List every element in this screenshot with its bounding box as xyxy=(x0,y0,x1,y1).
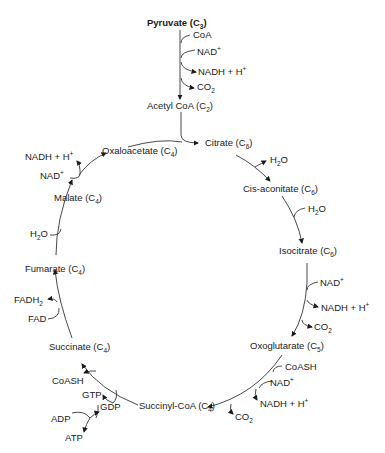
isocitrate-label: Isocitrate (C6) xyxy=(279,246,337,258)
nad-input-label: NAD+ xyxy=(197,46,221,57)
nadh-output-label: NADH + H+ xyxy=(198,66,246,77)
adp-label: ADP xyxy=(51,414,71,424)
co2-oxoglutarate-label: CO2 xyxy=(235,412,253,424)
oxaloacetate-label: Oxaloacetate (C4) xyxy=(102,146,177,158)
fad-label: FAD xyxy=(28,314,46,324)
acetyl-coa-label: Acetyl CoA (C2) xyxy=(147,101,213,113)
coash-succinyl-label: CoASH xyxy=(52,376,84,386)
malate-label: Malate (C4) xyxy=(54,193,102,205)
krebs-cycle-diagram: Pyruvate (C3) CoA NAD+ NADH + H+ CO2 Ace… xyxy=(0,0,385,453)
h2o-in-cisaconitate-label: H2O xyxy=(308,204,326,216)
nad-malate-label: NAD+ xyxy=(40,170,64,181)
nadh-oxoglutarate-label: NADH + H+ xyxy=(260,398,308,409)
succinate-label: Succinate (C4) xyxy=(49,342,110,354)
coa-input-label: CoA xyxy=(193,30,211,40)
citrate-label: Citrate (C6) xyxy=(205,138,252,150)
nad-isocitrate-label: NAD+ xyxy=(320,277,344,288)
nadh-isocitrate-label: NADH + H+ xyxy=(321,302,369,313)
coash-oxoglutarate-label: CoASH xyxy=(285,362,317,372)
oxoglutarate-label: Oxoglutarate (C5) xyxy=(250,341,324,353)
gdp-label: GDP xyxy=(100,402,121,412)
nadh-malate-label: NADH + H+ xyxy=(25,151,73,162)
succinyl-coa-label: Succinyl-CoA (C4) xyxy=(139,401,215,413)
h2o-fumarate-label: H2O xyxy=(30,229,48,241)
fumarate-label: Fumarate (C4) xyxy=(25,264,85,276)
co2-isocitrate-label: CO2 xyxy=(314,322,332,334)
fadh2-label: FADH2 xyxy=(14,295,43,307)
atp-label: ATP xyxy=(65,433,83,443)
cis-aconitate-label: Cis-aconitate (C6) xyxy=(243,184,318,196)
gtp-label: GTP xyxy=(82,390,102,400)
nad-oxoglutarate-label: NAD+ xyxy=(270,377,294,388)
co2-output-label: CO2 xyxy=(197,82,215,94)
h2o-out-citrate-label: H2O xyxy=(270,155,288,167)
